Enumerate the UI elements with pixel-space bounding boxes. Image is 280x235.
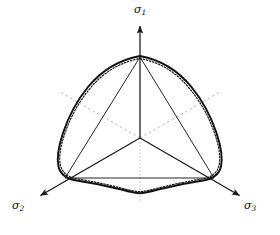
sigma-1-axis-label: σ1 (134, 4, 146, 15)
sigma-1-symbol: σ (134, 3, 142, 16)
sigma-3-symbol: σ (244, 199, 252, 212)
pi-plane-yield-surface-figure (0, 0, 280, 235)
sigma-2-symbol: σ (12, 199, 20, 212)
sigma-3-axis-label: σ3 (244, 200, 256, 211)
sigma-2-axis-label: σ2 (12, 200, 24, 211)
sigma-1-subscript: 1 (142, 8, 147, 17)
sigma-3-subscript: 3 (252, 204, 257, 213)
sigma-2-subscript: 2 (20, 204, 25, 213)
